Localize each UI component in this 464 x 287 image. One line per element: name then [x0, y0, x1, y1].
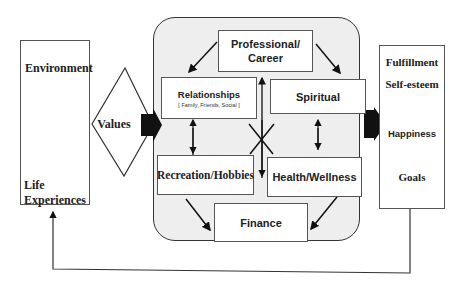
outcomes-box: Fulfillment Self-esteem Happiness Goals [379, 45, 445, 209]
self-esteem-label: Self-esteem [380, 78, 444, 90]
professional-label: Professional/ [231, 37, 300, 51]
happiness-label: Happiness [380, 128, 444, 139]
finance-label: Finance [240, 217, 282, 229]
health-wellness-box: Health/Wellness [267, 157, 362, 197]
finance-box: Finance [214, 203, 308, 242]
spiritual-box: Spiritual [270, 79, 366, 114]
goals-label: Goals [380, 171, 444, 183]
relationships-subtitle: [ Family, Friends, Social ] [178, 102, 239, 108]
values-label: Values [92, 116, 136, 132]
health-label: Health/Wellness [272, 171, 356, 183]
professional-career-box: Professional/ Career [218, 30, 313, 72]
recreation-label: Recreation/Hobbies [157, 169, 254, 181]
career-label: Career [248, 51, 283, 65]
recreation-hobbies-box: Recreation/Hobbies [157, 155, 254, 195]
spiritual-label: Spiritual [296, 91, 340, 103]
relationships-label: Relationships [178, 89, 240, 100]
relationships-box: Relationships [ Family, Friends, Social … [161, 77, 257, 119]
fulfillment-label: Fulfillment [380, 56, 444, 68]
